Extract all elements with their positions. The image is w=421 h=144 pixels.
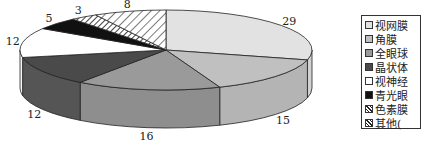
legend-item: 视网膜 xyxy=(365,18,420,32)
legend-label: 其他( xyxy=(375,115,401,131)
legend-swatch xyxy=(365,91,373,99)
legend-item: 全眼球 xyxy=(365,46,420,60)
slice-value-label: 15 xyxy=(276,114,290,127)
legend-swatch xyxy=(365,63,373,71)
legend-swatch xyxy=(365,105,373,113)
slice-value-label: 12 xyxy=(6,35,20,48)
slice-value-label: 12 xyxy=(27,108,41,121)
legend-item: 角膜 xyxy=(365,32,420,46)
legend-item: 色素膜 xyxy=(365,102,420,116)
legend-swatch xyxy=(365,119,373,127)
slice-value-label: 16 xyxy=(139,130,153,143)
slice-value-label: 3 xyxy=(75,4,82,17)
legend-swatch xyxy=(365,49,373,57)
legend-item: 视神经 xyxy=(365,74,420,88)
slice-value-label: 8 xyxy=(124,0,131,11)
legend-item: 晶状体 xyxy=(365,60,420,74)
legend-item: 青光眼 xyxy=(365,88,420,102)
legend-swatch xyxy=(365,21,373,29)
legend-item: 其他( xyxy=(365,116,420,130)
legend-swatch xyxy=(365,77,373,85)
slice-value-label: 5 xyxy=(45,12,52,25)
legend: 视网膜角膜全眼球晶状体视神经青光眼色素膜其他( xyxy=(361,15,421,129)
slice-value-label: 29 xyxy=(282,15,296,28)
legend-swatch xyxy=(365,35,373,43)
